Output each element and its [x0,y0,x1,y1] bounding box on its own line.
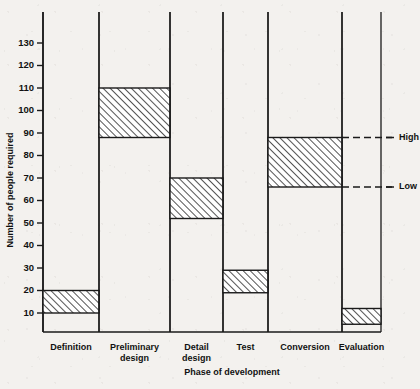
y-axis-tick-label: 20 [23,284,34,295]
y-axis-tick-label: 70 [23,172,34,183]
y-axis-tick-label: 110 [19,82,34,93]
y-axis-tick-label: 40 [23,239,34,250]
bars-group [43,12,381,332]
y-axis-title: Number of people required [5,132,15,247]
y-axis-tick-label: 60 [23,194,34,205]
x-category-label: Detaildesign [182,342,211,363]
range-bar[interactable] [342,309,381,325]
range-bar[interactable] [43,291,99,314]
range-bar[interactable] [170,178,223,219]
x-axis-title: Phase of development [184,367,280,377]
x-category-label: Definition [50,342,92,352]
y-axis-tick-label: 80 [23,149,34,160]
x-category-label: Test [237,342,255,352]
annotation-label-high: High [399,132,419,142]
x-category-labels: DefinitionPreliminarydesignDetaildesignT… [50,342,384,363]
x-category-label: Preliminarydesign [110,342,159,363]
range-bar-chart: 102030405060708090100110120130 HighLow D… [0,0,420,389]
y-axis-tick-label: 30 [23,262,34,273]
y-axis: 102030405060708090100110120130 [18,12,43,332]
annotation-label-low: Low [399,181,418,191]
y-axis-tick-label: 120 [18,59,34,70]
range-bar[interactable] [99,88,170,138]
y-axis-tick-label: 130 [18,37,34,48]
range-bar[interactable] [223,270,268,293]
y-axis-tick-label: 10 [23,307,34,318]
x-category-label: Evaluation [339,342,385,352]
y-axis-tick-label: 50 [23,217,34,228]
x-category-label: Conversion [280,342,330,352]
y-axis-tick-label: 90 [23,127,34,138]
chart-figure: 102030405060708090100110120130 HighLow D… [0,0,420,389]
y-axis-tick-label: 100 [18,104,34,115]
range-bar[interactable] [268,138,342,188]
